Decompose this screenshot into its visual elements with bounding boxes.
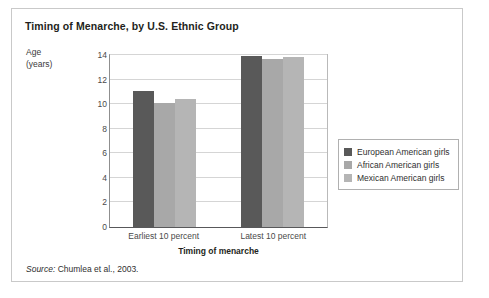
source-note: Source: Chumlea et al., 2003. <box>26 264 138 274</box>
bar[interactable] <box>154 103 175 227</box>
bars-layer <box>110 55 327 227</box>
legend-label: European American girls <box>357 147 450 157</box>
figure-card: Timing of Menarche, by U.S. Ethnic Group… <box>11 8 463 282</box>
legend-label: Mexican American girls <box>357 173 444 183</box>
y-axis-label: Age (years) <box>26 47 52 70</box>
legend-item[interactable]: Mexican American girls <box>344 171 450 184</box>
legend-swatch-icon <box>344 174 352 182</box>
y-axis-label-line2: (years) <box>26 59 52 71</box>
y-axis-tick-label: 8 <box>102 124 107 134</box>
legend-item[interactable]: African American girls <box>344 158 450 171</box>
bar[interactable] <box>262 59 283 227</box>
legend-swatch-icon <box>344 161 352 169</box>
legend: European American girlsAfrican American … <box>338 139 459 190</box>
y-axis-tick-labels: 02468101214 <box>86 54 107 228</box>
x-axis-tick-label: Earliest 10 percent <box>109 231 219 241</box>
y-axis-tick-label: 6 <box>102 148 107 158</box>
bar-group <box>219 55 328 227</box>
y-axis-tick-label: 12 <box>98 75 107 85</box>
y-axis-tick-label: 0 <box>102 222 107 232</box>
legend-swatch-icon <box>344 148 352 156</box>
plot-area <box>109 54 328 228</box>
x-axis-label: Timing of menarche <box>109 246 328 256</box>
bar[interactable] <box>241 56 262 227</box>
x-axis-tick-label: Latest 10 percent <box>219 231 329 241</box>
y-axis-tick-label: 14 <box>98 50 107 60</box>
page-title: Timing of Menarche, by U.S. Ethnic Group <box>25 20 239 32</box>
legend-item[interactable]: European American girls <box>344 145 450 158</box>
source-label: Source: <box>26 264 55 274</box>
y-axis-tick-label: 2 <box>102 197 107 207</box>
y-axis-tick-label: 10 <box>98 99 107 109</box>
x-axis-tick-labels: Earliest 10 percentLatest 10 percent <box>109 231 328 241</box>
bar-group <box>110 55 219 227</box>
bar[interactable] <box>283 57 304 227</box>
legend-label: African American girls <box>357 160 439 170</box>
y-axis-tick-label: 4 <box>102 173 107 183</box>
source-text: Chumlea et al., 2003. <box>58 264 139 274</box>
bar[interactable] <box>133 91 154 227</box>
y-axis-label-line1: Age <box>26 47 52 59</box>
bar[interactable] <box>175 99 196 227</box>
